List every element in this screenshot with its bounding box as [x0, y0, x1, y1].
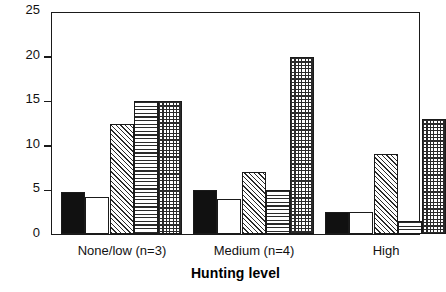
y-tick-mark-15 — [44, 101, 51, 103]
plot-area — [52, 13, 418, 234]
x-tick-label-none-low: None/low (n=3) — [78, 243, 167, 258]
y-axis: 25 20 15 10 5 0 — [0, 0, 51, 247]
bar-group-none-low — [52, 13, 174, 234]
bar-group-high — [316, 13, 438, 234]
y-tick-label-5: 5 — [33, 181, 40, 194]
bar-high-series-5 — [422, 119, 446, 234]
bar-medium-series-3 — [242, 172, 266, 234]
bar-medium-series-4 — [266, 190, 290, 234]
bar-high-series-3 — [374, 154, 398, 234]
y-tick-label-10: 10 — [26, 137, 40, 150]
bar-group-medium — [184, 13, 306, 234]
x-axis: None/low (n=3) Medium (n=4) High — [51, 243, 420, 265]
bar-none-low-series-2 — [85, 197, 109, 234]
bar-medium-series-1 — [193, 190, 217, 234]
y-tick-mark-5 — [44, 190, 51, 192]
y-tick-label-20: 20 — [26, 48, 40, 61]
y-tick-label-15: 15 — [26, 92, 40, 105]
bar-high-series-4 — [398, 221, 422, 234]
bar-none-low-series-1 — [61, 192, 85, 234]
bar-none-low-series-3 — [110, 124, 134, 235]
y-tick-label-0: 0 — [33, 226, 40, 239]
y-tick-mark-10 — [44, 145, 51, 147]
x-tick-label-high: High — [373, 243, 400, 258]
x-axis-title: Hunting level — [51, 265, 420, 281]
bar-medium-series-2 — [217, 199, 241, 234]
x-tick-label-medium: Medium (n=4) — [214, 243, 295, 258]
bar-medium-series-5 — [290, 57, 314, 234]
bar-high-series-1 — [325, 212, 349, 234]
y-tick-mark-20 — [44, 56, 51, 58]
bar-high-series-2 — [349, 212, 373, 234]
y-tick-label-25: 25 — [26, 3, 40, 16]
bar-none-low-series-4 — [134, 101, 158, 234]
bar-none-low-series-5 — [158, 101, 182, 234]
